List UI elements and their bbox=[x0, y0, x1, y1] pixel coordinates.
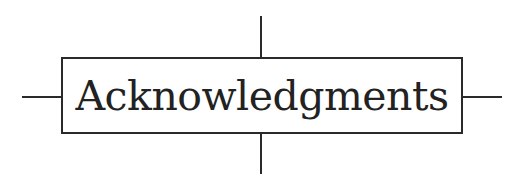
title-frame: Acknowledgments bbox=[61, 57, 463, 134]
section-title: Acknowledgments bbox=[75, 76, 448, 117]
vertical-rule-bottom bbox=[260, 134, 262, 174]
horizontal-rule-right bbox=[463, 96, 502, 98]
horizontal-rule-left bbox=[22, 96, 61, 98]
vertical-rule-top bbox=[260, 16, 262, 57]
